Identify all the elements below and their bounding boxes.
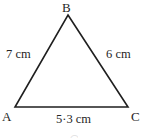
side-length-label-ac: 5·3 cm bbox=[56, 113, 91, 126]
side-length-label-ab: 7 cm bbox=[6, 48, 31, 61]
triangle-figure: B A C 7 cm 6 cm 5·3 cm ◠ bbox=[0, 0, 147, 138]
side-length-label-bc: 6 cm bbox=[106, 48, 131, 61]
cropped-edge-artifact: ◠ bbox=[70, 133, 78, 138]
triangle-outline bbox=[15, 15, 128, 107]
vertex-label-b: B bbox=[62, 1, 71, 14]
vertex-label-c: C bbox=[131, 110, 140, 123]
vertex-label-a: A bbox=[2, 110, 11, 123]
